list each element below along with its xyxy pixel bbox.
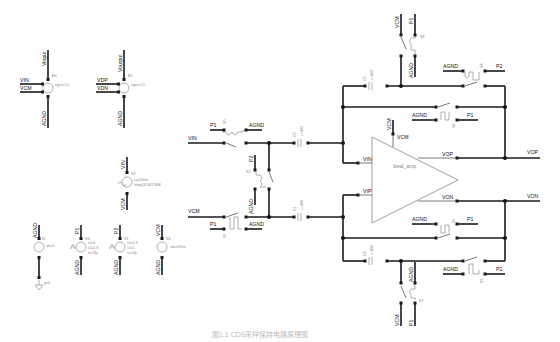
opamp-in-p-label: VIP <box>363 188 372 194</box>
v3-param2: v2=1.8 <box>88 246 98 250</box>
p2-bottom-label: P2 <box>496 266 502 272</box>
vsource-v5[interactable]: VIN V5 vo=500m freq=(31/64)*48M VCM <box>118 157 161 210</box>
i0-name: I0 <box>42 237 45 241</box>
agnd-p1-bottom-label: AGND <box>412 216 427 222</box>
current-source-icon <box>34 242 44 252</box>
i0-param: idc=0 <box>46 244 54 248</box>
opamp-vcm-pin: VCM <box>397 134 409 140</box>
switch-s0[interactable]: S0 <box>223 120 248 147</box>
e1-in-n: VDN <box>97 85 108 91</box>
vsource-v1[interactable]: P2 V1 v1=1.8 v2=0 tr=10p AGND <box>109 225 137 275</box>
c1-name: C1 <box>293 206 297 211</box>
agnd-vert-bottom-label: AGND <box>408 267 414 282</box>
vcm-label: VCM <box>188 208 200 214</box>
e0-bottom-net: AGND <box>41 111 47 126</box>
v4-bottom-net: AGND <box>155 260 161 275</box>
e1-top-net: Voutput <box>117 54 123 72</box>
p1-top-label: P1 <box>210 122 216 128</box>
vop-output-label: VOP <box>527 149 538 155</box>
p1-reset-bottom-label: P1 <box>467 216 473 222</box>
i0-bottom-net: gnd <box>44 281 50 285</box>
schematic-canvas: Vinput E0 egain:1.0 VIN VCM AGND Voutput… <box>0 0 560 342</box>
s2-name: S2 <box>246 170 250 174</box>
c3-name: C3 <box>363 251 367 256</box>
opamp-in-n-label: VIN <box>363 156 372 162</box>
ideal-opamp[interactable]: ideal_amp VCM VCM VIN VIP VOP VOP VON VO… <box>343 118 540 223</box>
pulse-wave-icon <box>70 245 76 248</box>
e0-in-n: VCM <box>20 85 32 91</box>
vsource-v3[interactable]: P1 V3 v1=0 v2=1.8 tr=18p AGND <box>70 225 98 275</box>
agnd-p1-top-label: AGND <box>412 112 427 118</box>
vcvs-symbol-icon <box>43 83 53 93</box>
v3-top-net: P1 <box>74 228 80 234</box>
agnd-mid-label: AGND <box>248 199 254 214</box>
vcvs-e0[interactable]: Vinput E0 egain:1.0 VIN VCM AGND <box>20 50 69 128</box>
switch-s9[interactable]: S9 <box>465 257 484 283</box>
opamp-out-n-label: VON <box>442 194 453 200</box>
p2-top-label: P2 <box>496 63 502 69</box>
switch-s1[interactable]: S1 <box>223 213 242 238</box>
v1-param1: v1=1.8 <box>127 241 137 245</box>
p1-bottom-fb-label: P1 <box>408 320 414 326</box>
switch-s5[interactable]: S5 <box>438 219 456 238</box>
v1-bottom-net: AGND <box>113 260 119 275</box>
feedback-bottom: S5 AGND P1 C3 c=200f S9 <box>341 201 507 326</box>
pulse-source-icon <box>115 242 125 252</box>
vcm-bottom-label: VCM <box>394 314 400 326</box>
isource-i0[interactable]: AGND I0 idc=0 gnd <box>32 223 54 290</box>
v3-param1: v1=0 <box>88 241 96 245</box>
v4-top-net: VCM <box>155 224 161 236</box>
e1-name: E1 <box>128 74 132 78</box>
e1-param: egain:1.0 <box>131 83 145 87</box>
e0-name: E0 <box>52 74 56 78</box>
s6-name: S6 <box>420 35 424 39</box>
s9-name: S9 <box>480 279 484 283</box>
input-stage: VIN S0 P1 AGND C0 c=400f <box>188 120 345 238</box>
s7-name: S7 <box>419 299 423 303</box>
vin-label: VIN <box>188 135 197 141</box>
v5-param2: freq=(31/64)*48M <box>134 183 161 187</box>
von-output-label: VON <box>527 193 538 199</box>
c3-value: c=200f <box>370 245 374 255</box>
vsource-v4[interactable]: VCM V4 vdc=900m AGND <box>155 224 186 275</box>
dc-source-icon <box>157 242 167 252</box>
switch-s7[interactable]: S7 <box>401 283 423 303</box>
agnd-bottom-label: AGND <box>249 221 264 227</box>
pulse-source-icon <box>76 242 86 252</box>
v3-bottom-net: AGND <box>74 260 80 275</box>
c2-value: c=200f <box>370 70 374 80</box>
switch-s6[interactable]: S6 <box>401 35 424 55</box>
agnd-p2-bottom-label: AGND <box>443 266 458 272</box>
vcm-top-label: VCM <box>394 16 400 28</box>
opamp-out-p-label: VOP <box>442 151 453 157</box>
agnd-vert-top-label: AGND <box>408 63 414 78</box>
v4-param: vdc=900m <box>170 245 186 249</box>
pulse-wave-icon <box>109 245 115 248</box>
agnd-top-label: AGND <box>249 122 264 128</box>
p1-reset-top-label: P1 <box>467 112 473 118</box>
v1-top-net: P2 <box>113 228 119 234</box>
figure-caption: 图1.1 CDS采样保持电路原理图 <box>212 330 308 339</box>
e1-bottom-net: AGND <box>117 111 123 126</box>
v1-param2: v2=0 <box>127 246 135 250</box>
s0-name: S0 <box>223 120 227 124</box>
switch-s2[interactable]: S2 <box>246 170 273 187</box>
v5-name: V5 <box>131 172 135 176</box>
p1-bottom-label: P1 <box>210 221 216 227</box>
vcvs-e1[interactable]: Voutput E1 egain:1.0 VDP VDN AGND <box>96 50 145 128</box>
switch-s4[interactable]: S4 <box>438 103 456 128</box>
c2-name: C2 <box>363 76 367 81</box>
e0-in-p: VIN <box>20 77 29 83</box>
s4-name: S4 <box>452 124 456 128</box>
opamp-vcm-net: VCM <box>386 118 392 130</box>
c0-name: C0 <box>293 132 297 137</box>
e0-param: egain:1.0 <box>55 83 69 87</box>
v5-param1: vo=500m <box>134 178 148 182</box>
e0-top-net: Vinput <box>41 51 47 66</box>
switch-s8[interactable]: S8 <box>465 64 484 86</box>
feedback-top: C2 c=200f S8 AGND P2 VCM S6 <box>341 14 507 158</box>
v4-name: V4 <box>166 237 170 241</box>
v5-top-net: VIN <box>120 160 126 169</box>
c0-value: c=400f <box>300 126 304 136</box>
e1-in-p: VDP <box>97 77 108 83</box>
